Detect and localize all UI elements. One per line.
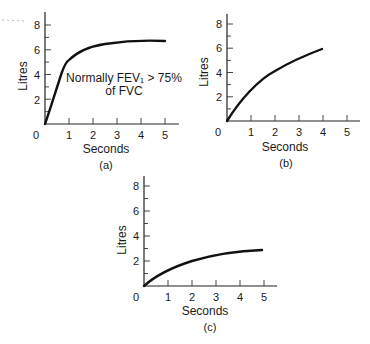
x-tick-label: 5 bbox=[344, 126, 350, 138]
y-tick-label: 6 bbox=[34, 44, 40, 56]
y-tick-label: 8 bbox=[34, 19, 40, 31]
x-tick-label: 2 bbox=[272, 126, 278, 138]
y-ticks bbox=[144, 186, 150, 274]
panel-caption: (c) bbox=[204, 321, 217, 333]
y-tick-label: 8 bbox=[133, 180, 139, 192]
x-tick-label: 3 bbox=[296, 126, 302, 138]
x-tick-label: 5 bbox=[162, 129, 168, 141]
y-axis-title: Litres bbox=[115, 225, 129, 254]
y-ticks bbox=[45, 25, 51, 112]
y-axis-title: Litres bbox=[16, 61, 30, 90]
x-axis-title: Seconds bbox=[262, 140, 309, 154]
x-tick-label: 1 bbox=[248, 126, 254, 138]
y-tick-label: 2 bbox=[216, 91, 222, 103]
panel-caption: (b) bbox=[279, 157, 292, 169]
y-tick-label: 2 bbox=[133, 255, 139, 267]
x-tick-label: 4 bbox=[237, 291, 243, 303]
y-tick-label: 4 bbox=[133, 230, 139, 242]
annotation-line-1: Normally FEV₁ > 75% bbox=[66, 71, 182, 85]
x-tick-label: 2 bbox=[189, 291, 195, 303]
x-tick-label: 5 bbox=[261, 291, 267, 303]
y-tick-label: 4 bbox=[34, 69, 40, 81]
x-ticks bbox=[168, 280, 264, 286]
y-tick-label: 8 bbox=[216, 18, 222, 30]
panel-caption: (a) bbox=[99, 159, 112, 171]
y-tick-label: 6 bbox=[216, 42, 222, 54]
chart-panel-a: 8 6 4 2 0 1 2 3 4 5 Seconds Litres (a) N… bbox=[16, 12, 182, 171]
x-axis-title: Seconds bbox=[83, 142, 130, 156]
x-tick-label: 2 bbox=[90, 129, 96, 141]
annotation-line-2: of FVC bbox=[105, 84, 143, 98]
x-tick-label: 1 bbox=[165, 291, 171, 303]
y-axis-title: Litres bbox=[197, 57, 211, 86]
y-tick-label: 2 bbox=[34, 94, 40, 106]
x-tick-label: 1 bbox=[66, 129, 72, 141]
chart-panel-c: 8 6 4 2 0 1 2 3 4 5 Seconds Litres (c) bbox=[115, 176, 277, 333]
x-tick-label: 4 bbox=[138, 129, 144, 141]
spirometry-figure: 8 6 4 2 0 1 2 3 4 5 Seconds Litres (a) N… bbox=[0, 0, 370, 344]
x-axis-title: Seconds bbox=[182, 304, 229, 318]
y-tick-label: 6 bbox=[133, 205, 139, 217]
x-ticks bbox=[69, 118, 165, 124]
curve-restrictive bbox=[144, 250, 262, 286]
y-tick-label: 4 bbox=[216, 67, 222, 79]
chart-panel-b: 8 6 4 2 0 1 2 3 4 5 Seconds Litres (b) bbox=[197, 14, 360, 169]
x-tick-label: 3 bbox=[114, 129, 120, 141]
x-ticks bbox=[251, 115, 347, 121]
x-tick-label: 3 bbox=[213, 291, 219, 303]
curve-obstructive bbox=[227, 49, 322, 121]
scan-artifact bbox=[2, 20, 26, 21]
x-tick-label: 0 bbox=[215, 126, 221, 138]
x-tick-label: 0 bbox=[33, 129, 39, 141]
y-ticks bbox=[227, 24, 233, 109]
x-tick-label: 4 bbox=[320, 126, 326, 138]
x-tick-label: 0 bbox=[133, 291, 139, 303]
